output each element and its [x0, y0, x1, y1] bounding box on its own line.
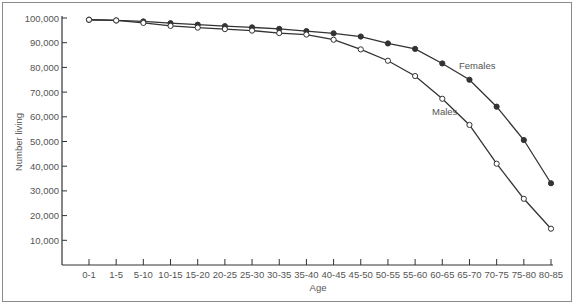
y-tick-label: 80,000 — [30, 62, 59, 73]
x-tick-label: 45-50 — [349, 269, 373, 280]
x-tick-label: 60-65 — [430, 269, 454, 280]
series-lines — [86, 17, 553, 231]
x-tick-label: 0-1 — [82, 269, 96, 280]
x-tick-label: 80-85 — [539, 269, 563, 280]
males-label: Males — [432, 106, 458, 117]
males-point — [114, 18, 119, 23]
males-point — [467, 122, 472, 127]
y-tick-label: 10,000 — [30, 235, 59, 246]
males-point — [222, 27, 227, 32]
x-tick-label: 55-60 — [403, 269, 427, 280]
x-tick-label: 35-40 — [294, 269, 318, 280]
y-tick-label: 100,000 — [25, 13, 59, 24]
females-point — [494, 104, 499, 109]
x-tick-label: 70-75 — [484, 269, 508, 280]
females-point — [548, 181, 553, 186]
females-point — [521, 137, 526, 142]
x-tick-label: 15-20 — [186, 269, 210, 280]
females-point — [413, 46, 418, 51]
x-axis-ticks: 0-11-55-1010-1515-2020-2525-3030-3535-40… — [82, 259, 563, 280]
y-tick-label: 90,000 — [30, 37, 59, 48]
males-point — [141, 20, 146, 25]
females-line — [89, 20, 551, 184]
males-point — [331, 37, 336, 42]
females-point — [358, 34, 363, 39]
females-point — [467, 77, 472, 82]
females-point — [331, 31, 336, 36]
females-point — [385, 41, 390, 46]
males-point — [304, 32, 309, 37]
x-tick-label: 40-45 — [321, 269, 345, 280]
x-tick-label: 25-30 — [240, 269, 264, 280]
males-point — [440, 96, 445, 101]
life-table-chart: 10,00020,00030,00040,00050,00060,00070,0… — [0, 0, 575, 306]
males-point — [385, 58, 390, 63]
males-point — [413, 73, 418, 78]
y-tick-label: 70,000 — [30, 87, 59, 98]
axes — [62, 16, 553, 265]
x-tick-label: 65-70 — [457, 269, 481, 280]
x-tick-label: 10-15 — [158, 269, 182, 280]
x-axis-title: Age — [310, 282, 327, 293]
y-tick-label: 60,000 — [30, 111, 59, 122]
males-point — [277, 30, 282, 35]
y-tick-label: 30,000 — [30, 185, 59, 196]
males-point — [86, 17, 91, 22]
x-tick-label: 5-10 — [134, 269, 153, 280]
males-point — [494, 161, 499, 166]
y-axis-title: Number living — [13, 113, 24, 171]
x-tick-label: 20-25 — [213, 269, 237, 280]
females-point — [440, 61, 445, 66]
males-line — [89, 20, 551, 229]
males-point — [249, 28, 254, 33]
x-tick-label: 30-35 — [267, 269, 291, 280]
y-axis-ticks: 10,00020,00030,00040,00050,00060,00070,0… — [25, 13, 67, 246]
x-tick-label: 1-5 — [109, 269, 123, 280]
females-label: Females — [459, 60, 496, 71]
y-tick-label: 50,000 — [30, 136, 59, 147]
males-point — [358, 47, 363, 52]
males-point — [548, 226, 553, 231]
x-tick-label: 75-80 — [512, 269, 536, 280]
y-tick-label: 20,000 — [30, 210, 59, 221]
males-point — [168, 23, 173, 28]
males-point — [521, 196, 526, 201]
x-tick-label: 50-55 — [376, 269, 400, 280]
y-tick-label: 40,000 — [30, 161, 59, 172]
males-point — [195, 25, 200, 30]
